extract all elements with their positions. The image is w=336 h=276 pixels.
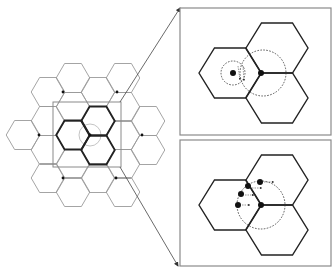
hex-cell bbox=[106, 150, 140, 179]
node-dot bbox=[258, 202, 264, 208]
hex-cell bbox=[56, 150, 90, 179]
hex-cell bbox=[131, 136, 165, 165]
node-dot bbox=[62, 177, 65, 180]
node-dot bbox=[238, 191, 244, 197]
node-dot bbox=[245, 183, 251, 189]
hex-cell bbox=[31, 164, 65, 193]
callout-arrow bbox=[120, 8, 180, 102]
detail-panels bbox=[180, 8, 331, 266]
panel-frame bbox=[180, 8, 331, 135]
top-detail-panel bbox=[180, 8, 331, 135]
hex-cell bbox=[31, 107, 65, 136]
hex-grid-figure bbox=[0, 0, 336, 276]
node-dot bbox=[115, 177, 118, 180]
bottom-detail-panel bbox=[180, 140, 331, 266]
node-dot bbox=[38, 134, 41, 137]
hex-cell bbox=[6, 121, 40, 150]
hex-cell bbox=[106, 64, 140, 93]
node-dot bbox=[89, 134, 92, 137]
hex-cell bbox=[56, 64, 90, 93]
hex-cell bbox=[81, 164, 115, 193]
hex-cell bbox=[131, 107, 165, 136]
node-dot bbox=[235, 202, 241, 208]
hex-cell bbox=[56, 93, 90, 122]
node-dot bbox=[230, 70, 236, 76]
node-dot bbox=[257, 179, 263, 185]
diagram-canvas bbox=[0, 0, 336, 276]
panel-frame bbox=[180, 140, 331, 266]
highlighted-hex-cell bbox=[81, 107, 115, 136]
callout-arrows bbox=[120, 8, 180, 266]
node-dot bbox=[62, 91, 65, 94]
node-dot bbox=[141, 134, 144, 137]
hex-cell bbox=[56, 178, 90, 207]
node-dot bbox=[116, 91, 119, 94]
node-dot bbox=[258, 70, 264, 76]
callout-arrow bbox=[120, 167, 178, 266]
highlighted-hex-cell bbox=[81, 136, 115, 165]
overview-hex-grid bbox=[6, 64, 165, 207]
